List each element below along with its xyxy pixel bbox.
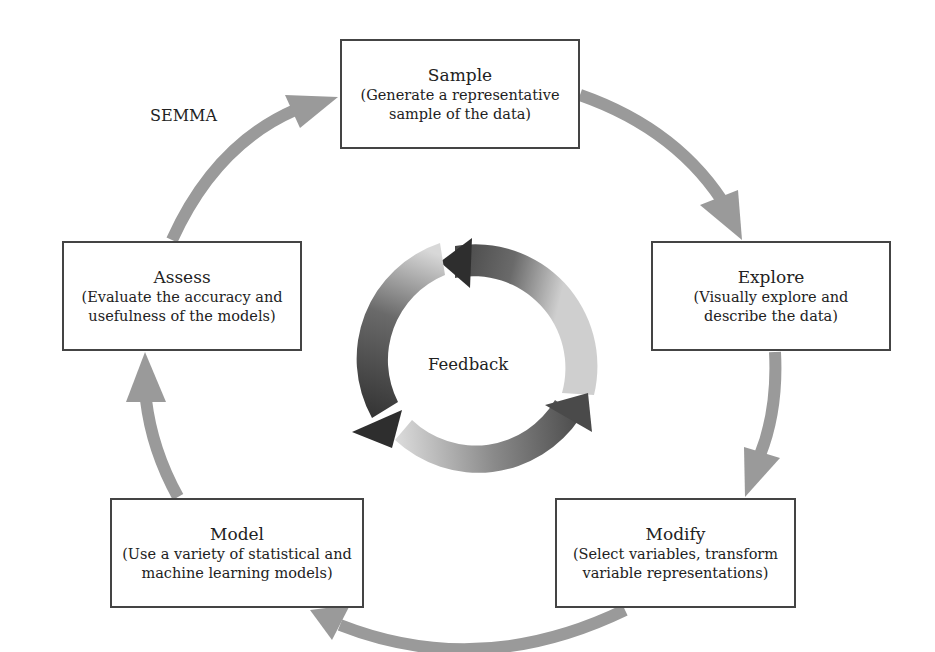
stage-box-model: Model (Use a variety of statistical and … (110, 498, 364, 608)
stage-title: Model (210, 524, 264, 545)
stage-description: usefulness of the models) (88, 307, 275, 326)
stage-description: (Use a variety of statistical and (122, 545, 352, 564)
stage-description: (Evaluate the accuracy and (81, 288, 282, 307)
stage-description: sample of the data) (389, 105, 531, 124)
arrow-modify-to-model (340, 610, 625, 649)
arrow-model-to-assess (146, 400, 178, 497)
stage-description: describe the data) (704, 307, 838, 326)
feedback-label: Feedback (428, 355, 508, 374)
stage-title: Assess (153, 267, 210, 288)
stage-description: (Visually explore and (694, 288, 849, 307)
stage-box-explore: Explore (Visually explore and describe t… (651, 241, 891, 351)
stage-description: machine learning models) (141, 564, 332, 583)
stage-description: (Select variables, transform (573, 545, 778, 564)
arrow-explore-to-modify (760, 352, 775, 455)
stage-title: Sample (428, 65, 492, 86)
stage-title: Explore (738, 267, 805, 288)
stage-box-modify: Modify (Select variables, transform vari… (555, 498, 796, 608)
stage-description: (Generate a representative (361, 86, 560, 105)
feedback-arrowhead-left (352, 410, 402, 448)
stage-box-sample: Sample (Generate a representative sample… (340, 39, 580, 149)
semma-label: SEMMA (150, 106, 217, 125)
stage-box-assess: Assess (Evaluate the accuracy and useful… (62, 241, 302, 351)
arrowhead-assess (126, 352, 166, 402)
arrow-assess-to-sample (172, 110, 295, 240)
stage-title: Modify (646, 524, 706, 545)
arrow-sample-to-explore (580, 95, 728, 210)
arrowhead-explore (700, 190, 742, 240)
feedback-arrowhead-top (440, 238, 472, 288)
stage-description: variable representations) (583, 564, 769, 583)
arrowhead-sample (285, 95, 338, 128)
arrowhead-modify (744, 447, 780, 497)
